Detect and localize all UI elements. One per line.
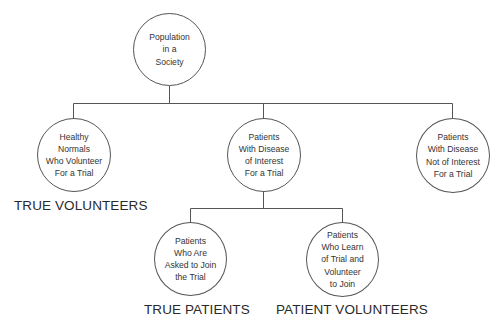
node-asked-to-join: Patients Who Are Asked to Join the Trial [154, 222, 227, 296]
caption-true-volunteers: TRUE VOLUNTEERS [14, 198, 148, 213]
node-healthy-volunteers-label: Healthy Normals Who Volunteer For a Tria… [46, 131, 102, 180]
node-learn-and-volunteer: Patients Who Learn of Trial and Voluntee… [306, 222, 379, 297]
node-disease-of-interest: Patients With Disease of Interest For a … [227, 118, 301, 192]
caption-patient-volunteers: PATIENT VOLUNTEERS [276, 302, 428, 317]
node-population-label: Population in a Society [149, 31, 190, 68]
node-disease-not-of-interest: Patients With Disease Not of Interest Fo… [416, 118, 490, 193]
node-disease-of-interest-label: Patients With Disease of Interest For a … [239, 131, 290, 180]
node-asked-to-join-label: Patients Who Are Asked to Join the Trial [165, 235, 217, 284]
caption-true-patients: TRUE PATIENTS [144, 302, 250, 317]
node-learn-and-volunteer-label: Patients Who Learn of Trial and Voluntee… [321, 229, 364, 290]
node-healthy-volunteers: Healthy Normals Who Volunteer For a Tria… [37, 118, 111, 192]
node-population: Population in a Society [133, 13, 206, 86]
node-disease-not-of-interest-label: Patients With Disease Not of Interest Fo… [426, 131, 480, 180]
